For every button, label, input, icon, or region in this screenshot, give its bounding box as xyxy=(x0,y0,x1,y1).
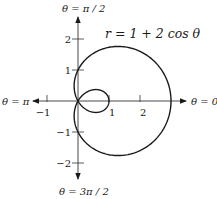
y-tick-label: 1 xyxy=(65,65,71,76)
axis-label-left: θ = π xyxy=(2,96,30,107)
axis-label-right: θ = 0 xyxy=(191,96,217,107)
x-tick-label: 2 xyxy=(140,107,146,118)
x-tick-label: 1 xyxy=(109,107,115,118)
y-tick-label: 2 xyxy=(65,34,71,45)
y-tick-label: −2 xyxy=(56,158,71,169)
equation-label: r = 1 + 2 cos θ xyxy=(105,26,201,41)
polar-plot: −112 21−1−2 θ = π / 2 θ = 0 θ = π θ = 3π… xyxy=(0,0,217,199)
axis-label-bottom: θ = 3π / 2 xyxy=(59,186,109,197)
x-tick-label: −1 xyxy=(36,107,51,118)
axis-label-top: θ = π / 2 xyxy=(62,3,105,14)
x-ticks: −112 xyxy=(36,95,147,118)
y-tick-label: −1 xyxy=(56,127,71,138)
